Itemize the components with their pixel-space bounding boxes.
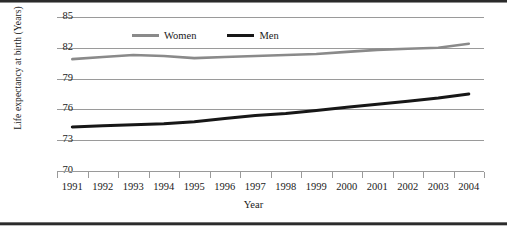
x-tick-1992 [88,172,89,178]
series-line-men [72,94,469,127]
x-tick-2002 [393,172,394,178]
x-tick-1995 [179,172,180,178]
y-tick-label-76: 76 [43,103,73,113]
y-axis-title: Life expectancy at birth (Years) [13,0,23,138]
bottom-divider-rule [0,222,507,226]
series-line-women [72,44,469,59]
x-tick-label-2004: 2004 [448,181,490,192]
x-tick-2004 [454,172,455,178]
x-tick-2001 [362,172,363,178]
legend-label-men: Men [259,30,278,41]
x-tick-1997 [240,172,241,178]
y-tick-label-85: 85 [43,11,73,21]
x-tick-1996 [210,172,211,178]
legend-label-women: Women [164,30,196,41]
legend-item-women: Women [132,30,196,41]
legend-item-men: Men [227,30,278,41]
x-tick-end [484,172,485,178]
chart-legend: Women Men [132,30,279,41]
x-tick-1999 [301,172,302,178]
x-tick-1994 [149,172,150,178]
x-axis-title: Year [0,199,507,210]
y-tick-label-82: 82 [43,42,73,52]
life-expectancy-line-chart: Life expectancy at birth (Years) 8582797… [0,3,507,222]
y-tick-label-73: 73 [43,134,73,144]
line-swatch-black-icon [227,34,254,37]
x-tick-2003 [423,172,424,178]
y-tick-label-79: 79 [43,73,73,83]
x-tick-1993 [118,172,119,178]
line-swatch-gray-icon [132,34,159,37]
x-tick-1998 [271,172,272,178]
x-tick-1991 [57,172,58,178]
y-tick-label-70: 70 [43,165,73,175]
x-tick-2000 [332,172,333,178]
